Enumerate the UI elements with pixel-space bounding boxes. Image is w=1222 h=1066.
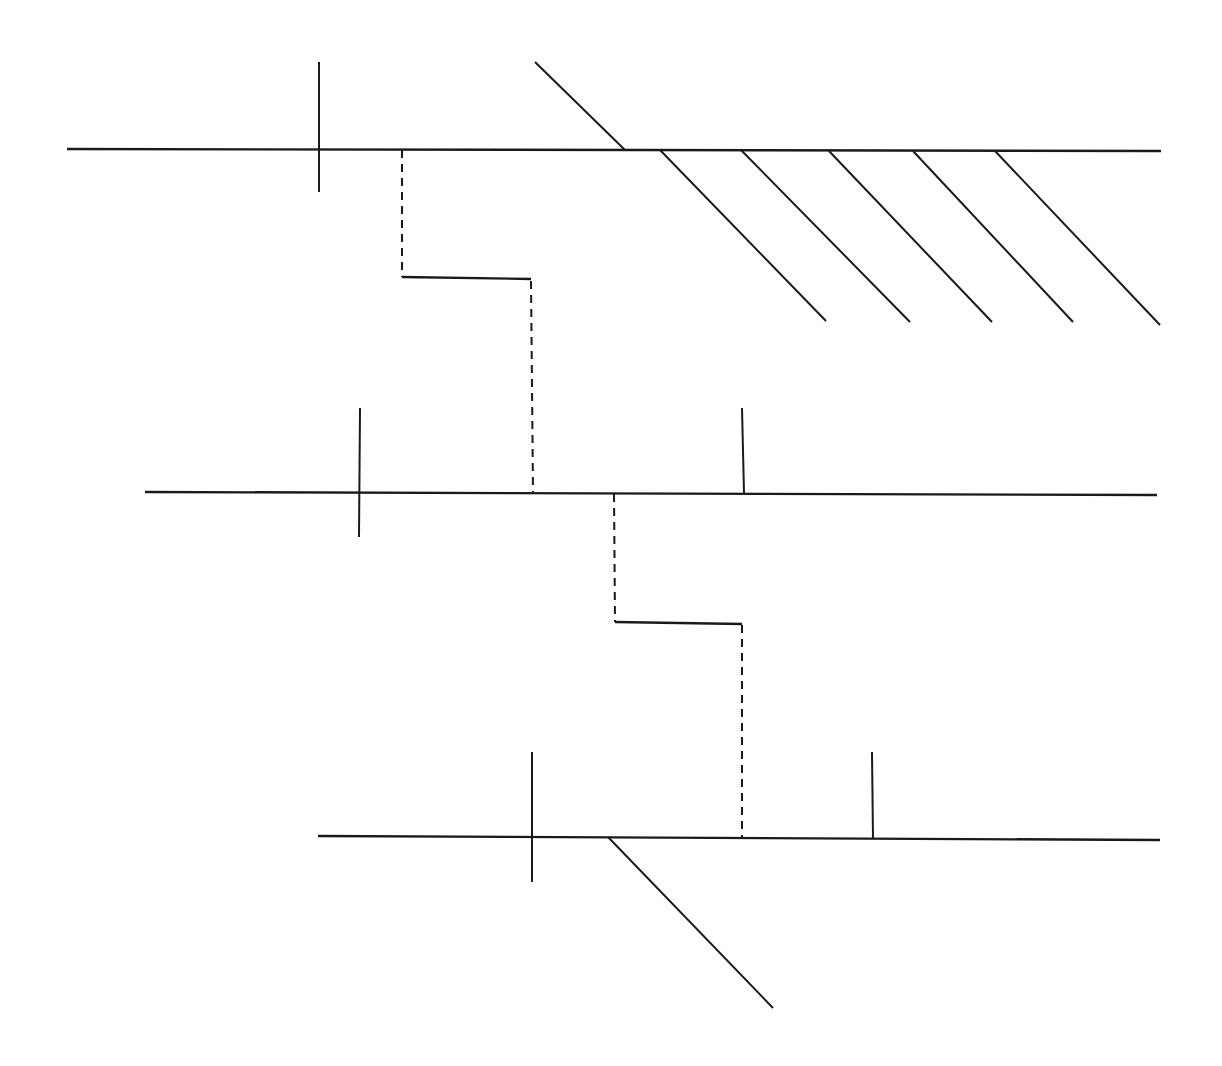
horizon-line-lower — [318, 836, 1160, 840]
hatch-2-line — [741, 150, 910, 322]
middle-tick-left — [359, 408, 360, 537]
lower-step-dashed-1 — [614, 494, 615, 622]
hatch-4-line — [913, 151, 1073, 322]
lower-fault-line — [608, 837, 773, 1008]
diagram-canvas — [0, 0, 1222, 1066]
hatch-3-line — [829, 151, 992, 322]
hatch-1-line — [660, 150, 826, 321]
middle-tick-right — [742, 408, 744, 493]
fault-and-hatch-lines — [535, 62, 1160, 1008]
horizon-line-upper — [67, 149, 1161, 151]
lower-step-solid-1 — [615, 622, 742, 624]
hatch-5-line — [995, 151, 1160, 325]
horizon-line-middle — [145, 492, 1157, 495]
lower-tick-right — [872, 752, 873, 838]
upper-fault-line — [535, 62, 625, 150]
upper-step-solid-1 — [402, 277, 531, 279]
upper-step-dashed-2 — [531, 281, 533, 492]
